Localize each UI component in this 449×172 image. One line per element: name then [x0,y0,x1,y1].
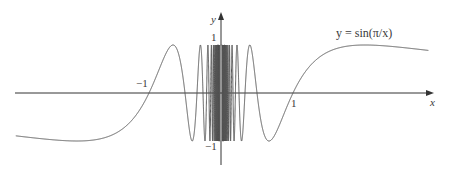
y-axis-label: y [211,14,216,25]
x-tick-1: 1 [291,98,297,109]
y-tick-1: 1 [211,32,217,43]
x-axis-label: x [430,97,435,108]
y-axis-arrow-icon [218,12,224,20]
x-tick-neg1: −1 [136,78,148,89]
function-label: y = sin(π/x) [336,27,392,39]
y-tick-neg1: −1 [205,141,217,152]
